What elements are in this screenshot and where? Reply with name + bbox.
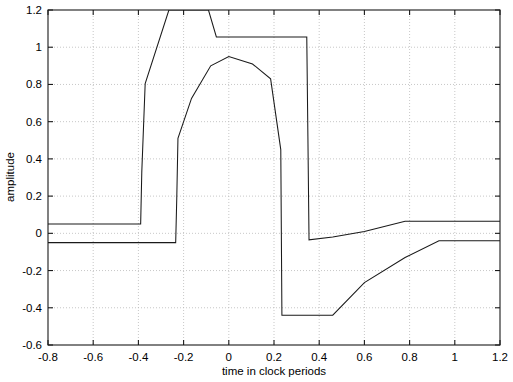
amplitude-vs-time-chart: -0.8-0.6-0.4-0.200.20.40.60.811.2 -0.6-0… xyxy=(0,0,513,382)
y-axis-label: amplitude xyxy=(4,152,16,202)
x-tick-label: 0.8 xyxy=(402,351,418,363)
x-tick-label: 1.2 xyxy=(492,351,508,363)
x-tick-label: 0.2 xyxy=(266,351,282,363)
x-tick-label: 0 xyxy=(226,351,232,363)
y-tick-label: -0.4 xyxy=(22,302,42,314)
y-tick-label: 1 xyxy=(36,41,42,53)
x-tick-label: 0.4 xyxy=(311,351,328,363)
y-tick-label: 0.2 xyxy=(26,190,42,202)
y-tick-label: 0.8 xyxy=(26,78,42,90)
y-tick-label: 0.6 xyxy=(26,116,42,128)
y-tick-label: 0.4 xyxy=(26,153,43,165)
x-tick-label: 1 xyxy=(452,351,458,363)
y-tick-label: 1.2 xyxy=(26,4,42,16)
y-tick-label: -0.6 xyxy=(22,339,42,351)
x-tick-label: -0.6 xyxy=(83,351,103,363)
x-tick-label: -0.2 xyxy=(174,351,194,363)
chart-background xyxy=(0,0,513,382)
x-tick-label: 0.6 xyxy=(356,351,372,363)
y-tick-label: 0 xyxy=(36,227,42,239)
figure-container: -0.8-0.6-0.4-0.200.20.40.60.811.2 -0.6-0… xyxy=(0,0,513,382)
y-tick-label: -0.2 xyxy=(22,265,42,277)
x-tick-label: -0.4 xyxy=(128,351,148,363)
x-tick-label: -0.8 xyxy=(38,351,58,363)
x-axis-label: time in clock periods xyxy=(222,365,326,377)
